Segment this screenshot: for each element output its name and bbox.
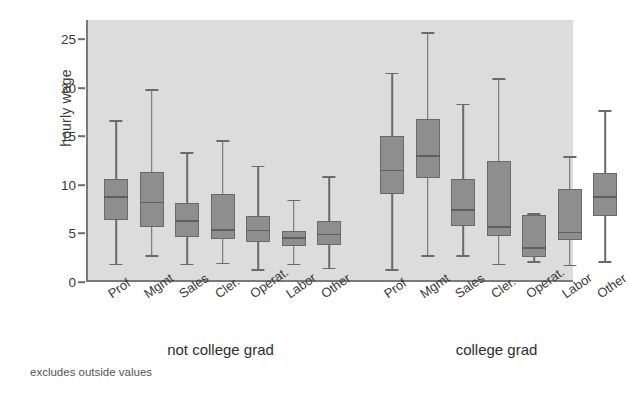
iqr-box — [522, 215, 546, 257]
upper-whisker-cap — [421, 32, 434, 34]
median-line — [593, 196, 617, 198]
box-plot — [175, 18, 199, 280]
group-label-college-grad: college grad — [407, 341, 587, 358]
lower-whisker — [391, 194, 393, 272]
box-plot — [593, 18, 617, 280]
upper-whisker-cap — [145, 89, 158, 91]
median-line — [246, 230, 270, 232]
lower-whisker-cap — [527, 261, 540, 263]
lower-whisker — [498, 236, 500, 265]
lower-whisker-cap — [251, 269, 264, 271]
upper-whisker-cap — [180, 152, 193, 154]
lower-whisker-cap — [322, 268, 335, 270]
lower-whisker-cap — [145, 255, 158, 257]
median-line — [282, 237, 306, 239]
iqr-box — [593, 173, 617, 216]
upper-whisker — [328, 178, 330, 221]
box-plot — [246, 18, 270, 280]
lower-whisker-cap — [598, 261, 611, 263]
median-line — [487, 226, 511, 228]
iqr-box — [416, 119, 440, 178]
lower-whisker — [328, 245, 330, 269]
upper-whisker — [604, 112, 606, 173]
box-plot — [282, 18, 306, 280]
plot-area — [86, 20, 573, 282]
median-line — [451, 209, 475, 211]
median-line — [380, 170, 404, 172]
lower-whisker — [115, 220, 117, 266]
upper-whisker-cap — [216, 140, 229, 142]
lower-whisker — [604, 216, 606, 263]
upper-whisker-cap — [598, 110, 611, 112]
box-plot — [487, 18, 511, 280]
median-line — [104, 196, 128, 198]
upper-whisker — [222, 142, 224, 193]
chart-note: excludes outside values — [30, 366, 152, 378]
median-line — [558, 232, 582, 234]
lower-whisker — [427, 178, 429, 257]
median-line — [140, 202, 164, 204]
upper-whisker — [186, 154, 188, 203]
y-tick-label: 10 — [48, 177, 76, 192]
box-plot — [380, 18, 404, 280]
upper-whisker-cap — [109, 120, 122, 122]
lower-whisker-cap — [180, 264, 193, 266]
y-tick-mark — [78, 87, 85, 89]
upper-whisker — [115, 122, 117, 179]
upper-whisker — [257, 167, 259, 216]
lower-whisker-cap — [421, 255, 434, 257]
median-line — [317, 234, 341, 236]
upper-whisker-cap — [492, 78, 505, 80]
iqr-box — [211, 194, 235, 240]
iqr-box — [380, 136, 404, 193]
box-plot — [558, 18, 582, 280]
upper-whisker — [569, 158, 571, 189]
lower-whisker-cap — [563, 265, 576, 267]
lower-whisker-cap — [385, 269, 398, 271]
y-tick-mark — [78, 39, 85, 41]
median-line — [175, 220, 199, 222]
y-tick-label: 5 — [48, 226, 76, 241]
box-plot — [451, 18, 475, 280]
lower-whisker-cap — [109, 264, 122, 266]
lower-whisker — [569, 240, 571, 266]
iqr-box — [104, 179, 128, 220]
lower-whisker — [151, 227, 153, 257]
y-tick-label: 15 — [48, 129, 76, 144]
box-plot — [317, 18, 341, 280]
y-tick-mark — [78, 281, 85, 283]
lower-whisker — [462, 226, 464, 257]
upper-whisker — [293, 201, 295, 230]
box-plot — [416, 18, 440, 280]
y-tick-label: 25 — [48, 32, 76, 47]
y-axis-tick-labels: 0510152025 — [46, 0, 76, 393]
upper-whisker-cap — [385, 73, 398, 75]
y-tick-label: 0 — [48, 275, 76, 290]
upper-whisker-cap — [322, 176, 335, 178]
box-plot — [140, 18, 164, 280]
iqr-box — [140, 172, 164, 226]
upper-whisker — [151, 91, 153, 173]
box-plot — [104, 18, 128, 280]
lower-whisker — [222, 239, 224, 264]
upper-whisker — [391, 74, 393, 136]
median-line — [522, 247, 546, 249]
y-tick-mark — [78, 184, 85, 186]
iqr-box — [451, 179, 475, 226]
lower-whisker-cap — [287, 264, 300, 266]
lower-whisker — [257, 242, 259, 271]
y-tick-mark — [78, 233, 85, 235]
box-plots-layer — [88, 20, 573, 280]
upper-whisker — [462, 105, 464, 179]
lower-whisker — [293, 246, 295, 265]
upper-whisker — [427, 34, 429, 119]
upper-whisker-cap — [456, 104, 469, 106]
box-plot — [522, 18, 546, 280]
upper-whisker-cap — [287, 200, 300, 202]
upper-whisker — [498, 80, 500, 161]
lower-whisker-cap — [216, 263, 229, 265]
median-line — [211, 229, 235, 231]
box-plot — [211, 18, 235, 280]
lower-whisker-cap — [492, 264, 505, 266]
